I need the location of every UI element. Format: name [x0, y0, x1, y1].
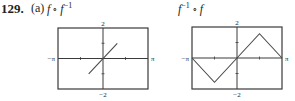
x-max-label: π [151, 55, 155, 63]
y-max-label: 2 [101, 20, 105, 28]
chart-right: 2−2−ππ [182, 19, 289, 99]
charts-canvas: 2−2−ππ 2−2−ππ [0, 0, 295, 101]
y-min-label: −2 [99, 91, 107, 99]
x-min-label: −π [48, 55, 56, 63]
x-max-label: π [285, 55, 289, 63]
y-max-label: 2 [235, 19, 239, 27]
y-min-label: −2 [233, 91, 241, 99]
chart-left: 2−2−ππ [48, 20, 155, 99]
x-min-label: −π [182, 55, 190, 63]
